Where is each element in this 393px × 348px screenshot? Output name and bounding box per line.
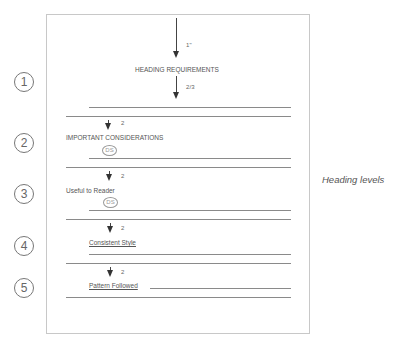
spacing-label: 2 [121,173,124,179]
double-space-mark: DS [102,145,117,156]
level-4-badge: 4 [14,236,34,256]
text-line [66,219,291,220]
level-1-badge: 1 [14,72,34,92]
text-line [150,288,291,289]
arrow-down-icon [106,174,112,181]
text-line [89,107,291,108]
spacing-label: 2 [121,225,124,231]
spacing-label: 2/3 [186,84,195,90]
arrow-down-icon [107,226,113,233]
text-line [66,116,291,117]
arrow-down-icon [107,270,113,277]
level-3-heading: Useful to Reader [66,187,115,194]
spacing-label: 2 [121,269,124,275]
level-1-heading: HEADING REQUIREMENTS [135,66,219,73]
page-frame [46,14,310,334]
level-3-badge: 3 [14,184,34,204]
spacing-arrow-shaft [176,76,177,93]
level-2-heading: IMPORTANT CONSIDERATIONS [66,134,163,141]
arrow-down-icon [173,92,179,99]
text-line [89,254,291,255]
text-line [89,158,291,159]
double-space-mark: DS [103,197,118,208]
figure-caption: Heading levels [322,174,384,185]
top-margin-arrow-shaft [176,18,177,52]
level-5-heading: Pattern Followed [89,282,138,289]
level-4-heading: Consistent Style [89,239,136,246]
level-5-badge: 5 [14,278,34,298]
top-margin-label: 1" [186,42,192,48]
arrow-down-icon [173,51,179,58]
text-line [66,167,291,168]
spacing-label: 2 [121,120,124,126]
text-line [89,210,291,211]
arrow-down-icon [105,123,111,130]
level-2-badge: 2 [14,133,34,153]
text-line [66,263,291,264]
text-line [66,297,291,298]
